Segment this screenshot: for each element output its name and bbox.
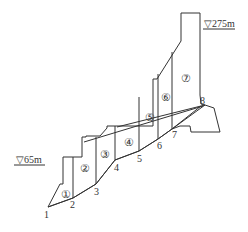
point-label-3: 3 — [94, 186, 99, 197]
slip-line-mid — [117, 105, 205, 127]
slip-line-upper — [84, 106, 203, 142]
slice-label-5: ⑤ — [145, 111, 155, 123]
point-label-6: 6 — [157, 140, 162, 151]
point-label-7: 7 — [172, 129, 177, 140]
point-label-2: 2 — [70, 199, 75, 210]
slice-label-4: ④ — [124, 136, 134, 148]
point-label-5: 5 — [137, 153, 142, 164]
slice-label-6: ⑥ — [161, 91, 171, 103]
slice-label-7: ⑦ — [181, 72, 191, 84]
point-label-1: 1 — [44, 209, 49, 220]
slice-label-2: ② — [80, 162, 90, 174]
slice-label-3: ③ — [100, 148, 110, 160]
elevation-top-label: ▽275m — [204, 18, 235, 29]
elevation-water-label: ▽65m — [16, 154, 42, 165]
dam-section-diagram: ▽275m ▽65m ① ② ③ ④ ⑤ ⑥ ⑦ 1 2 3 4 5 6 7 8 — [0, 0, 248, 232]
slip-line-7-8 — [172, 105, 205, 129]
point-label-8: 8 — [200, 95, 205, 106]
point-label-4: 4 — [114, 162, 119, 173]
dam-outline — [48, 13, 220, 207]
